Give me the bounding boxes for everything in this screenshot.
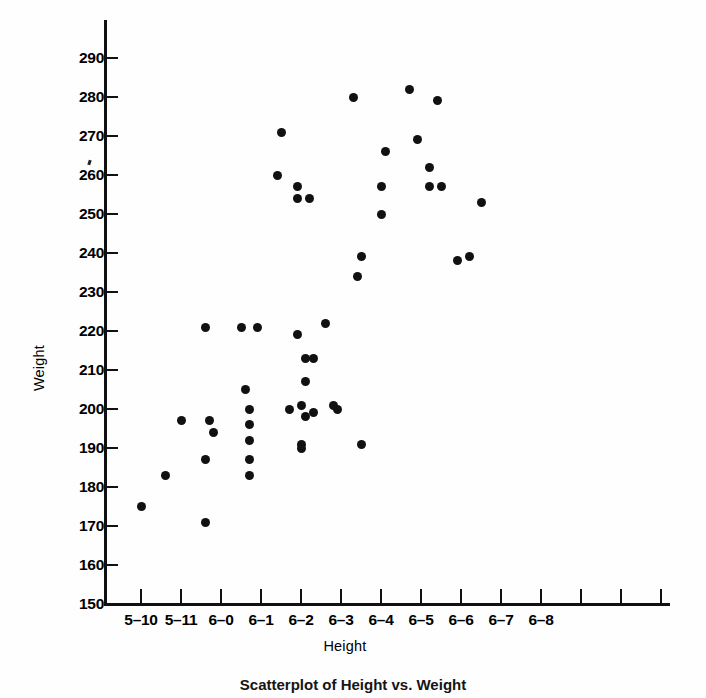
y-axis-tick-label: 250 (58, 206, 104, 222)
y-axis-tick (107, 486, 118, 488)
y-axis-tick (107, 291, 118, 293)
scatter-point (161, 471, 170, 480)
x-axis-tick (260, 589, 262, 603)
x-axis-tick (660, 589, 662, 603)
scatter-point (437, 182, 446, 191)
y-axis-line (104, 20, 107, 606)
scatter-point (349, 93, 358, 102)
y-axis-tick-label: 180 (58, 479, 104, 495)
y-axis-tick (107, 603, 118, 605)
scatter-point (177, 416, 186, 425)
scatter-point (201, 323, 210, 332)
scatter-point (413, 135, 422, 144)
y-axis-tick-label-wrap: 240 (48, 245, 104, 261)
scatter-point (293, 330, 302, 339)
figure-caption: Scatterplot of Height vs. Weight (0, 676, 706, 693)
scatter-point (293, 182, 302, 191)
y-axis-tick-label-wrap: 250 (48, 206, 104, 222)
y-axis-tick-label-wrap: 260 (48, 167, 104, 183)
scatterplot-figure: 2902802702602502402302202102001901801701… (0, 0, 706, 698)
scatter-point (245, 471, 254, 480)
y-axis-tick (107, 57, 118, 59)
x-axis-tick (500, 589, 502, 603)
y-axis-title: Weight (31, 323, 47, 413)
y-axis-tick (107, 252, 118, 254)
scatter-point (309, 354, 318, 363)
y-axis-tick (107, 96, 118, 98)
scatter-point (253, 323, 262, 332)
scatter-point (377, 182, 386, 191)
y-axis-tick (107, 525, 118, 527)
scatter-point (245, 405, 254, 414)
x-axis-tick (580, 589, 582, 603)
x-axis-line (104, 603, 670, 606)
scatter-point (377, 210, 386, 219)
y-axis-tick (107, 213, 118, 215)
scatter-point (297, 401, 306, 410)
x-axis-tick (420, 589, 422, 603)
y-axis-tick-label: 290 (58, 50, 104, 66)
scatter-point (237, 323, 246, 332)
y-axis-tick (107, 564, 118, 566)
scatter-point (209, 428, 218, 437)
y-axis-tick (107, 447, 118, 449)
scatter-point (433, 96, 442, 105)
x-axis-tick (180, 589, 182, 603)
y-axis-tick-label: 240 (58, 245, 104, 261)
y-axis-tick (107, 174, 118, 176)
scatter-point (405, 85, 414, 94)
scatter-point (293, 194, 302, 203)
y-axis-tick-label-wrap: 210 (48, 362, 104, 378)
scatter-point (477, 198, 486, 207)
scatter-point (241, 385, 250, 394)
y-axis-tick-label: 190 (58, 440, 104, 456)
y-axis-tick-label: 280 (58, 89, 104, 105)
y-axis-tick-label-wrap: 200 (48, 401, 104, 417)
y-axis-tick-label-wrap: 290 (48, 50, 104, 66)
x-axis-tick (300, 589, 302, 603)
scatter-point (309, 408, 318, 417)
y-axis-tick-label: 200 (58, 401, 104, 417)
scatter-point (245, 436, 254, 445)
scatter-point (301, 377, 310, 386)
scatter-point (381, 147, 390, 156)
y-axis-tick-label-wrap: 280 (48, 89, 104, 105)
y-axis-tick-label-wrap: 230 (48, 284, 104, 300)
scatter-point (321, 319, 330, 328)
x-axis-tick (380, 589, 382, 603)
y-axis-tick-label: 210 (58, 362, 104, 378)
scatter-point (333, 405, 342, 414)
x-axis-tick (620, 589, 622, 603)
y-axis-tick (107, 135, 118, 137)
scatter-point (425, 163, 434, 172)
scatter-point (301, 412, 310, 421)
x-axis-tick-label: 6–8 (511, 612, 571, 628)
scatter-point (205, 416, 214, 425)
scatter-point (453, 256, 462, 265)
y-axis-tick-label-wrap: 160 (48, 557, 104, 573)
x-axis-tick (540, 589, 542, 603)
scatter-point (285, 405, 294, 414)
y-axis-tick-label: 160 (58, 557, 104, 573)
y-axis-tick (107, 369, 118, 371)
scatter-point (357, 440, 366, 449)
y-axis-tick (107, 408, 118, 410)
y-axis-tick-label: 270 (58, 128, 104, 144)
y-axis-tick-label-wrap: 220 (48, 323, 104, 339)
y-axis-tick-label: 170 (58, 518, 104, 534)
x-axis-tick (340, 589, 342, 603)
y-axis-tick-label: 220 (58, 323, 104, 339)
scatter-point (201, 455, 210, 464)
x-axis-title: Height (285, 638, 405, 654)
scatter-point (353, 272, 362, 281)
scatter-point (277, 128, 286, 137)
scatter-point (465, 252, 474, 261)
scatter-point (357, 252, 366, 261)
x-axis-tick (460, 589, 462, 603)
scatter-point (305, 194, 314, 203)
y-axis-tick-label-wrap: 270 (48, 128, 104, 144)
x-axis-tick (220, 589, 222, 603)
scatter-point (245, 455, 254, 464)
scatter-point (425, 182, 434, 191)
y-axis-tick-label-wrap: 180 (48, 479, 104, 495)
